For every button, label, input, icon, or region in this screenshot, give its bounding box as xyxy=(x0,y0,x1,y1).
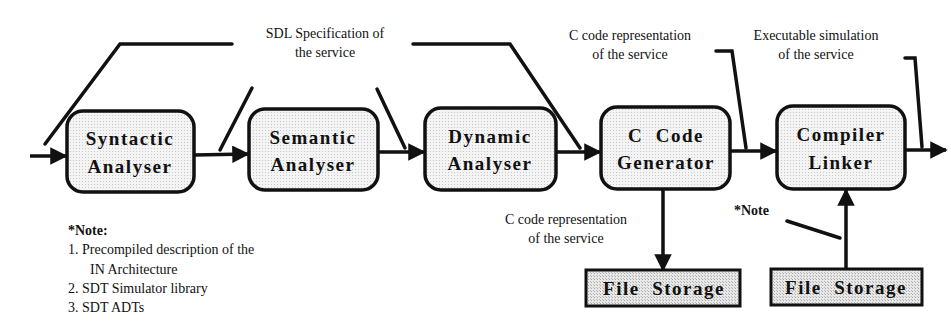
file-storage-input: File Storage xyxy=(771,269,922,305)
process-flow-diagram: SDL Specification of the service C code … xyxy=(0,0,951,331)
svg-text:of the service: of the service xyxy=(592,47,667,62)
executable-leader-line xyxy=(905,58,922,147)
svg-text:Syntactic: Syntactic xyxy=(86,128,174,149)
svg-text:Executable simulation: Executable simulation xyxy=(754,28,879,43)
stage-compiler-linker: Compiler Linker xyxy=(777,106,905,189)
svg-text:Analyser: Analyser xyxy=(271,154,356,175)
svg-text:*Note:: *Note: xyxy=(68,223,108,238)
stage-dynamic-analyser: Dynamic Analyser xyxy=(425,108,556,190)
sdl-spec-annotation: SDL Specification of the service xyxy=(266,26,385,60)
svg-text:File Storage: File Storage xyxy=(785,277,907,298)
svg-text:Semantic: Semantic xyxy=(270,127,357,148)
svg-text:Generator: Generator xyxy=(617,152,715,173)
svg-text:the service: the service xyxy=(295,45,355,60)
svg-text:Analyser: Analyser xyxy=(88,156,173,177)
file-storage-output: File Storage xyxy=(586,270,740,306)
svg-text:3. SDT ADTs: 3. SDT ADTs xyxy=(68,300,144,315)
svg-text:of the service: of the service xyxy=(528,231,603,246)
note-block: *Note: 1. Precompiled description of the… xyxy=(68,223,254,315)
svg-text:Compiler: Compiler xyxy=(796,124,885,145)
svg-text:File Storage: File Storage xyxy=(603,278,725,299)
svg-text:Analyser: Analyser xyxy=(448,153,533,174)
svg-text:IN Architecture: IN Architecture xyxy=(90,262,177,277)
svg-text:of the service: of the service xyxy=(778,47,853,62)
svg-text:C code representation: C code representation xyxy=(569,28,691,43)
svg-text:C Code: C Code xyxy=(628,125,704,146)
stage-c-code-generator: C Code Generator xyxy=(601,107,730,189)
executable-annotation: Executable simulation of the service xyxy=(754,28,879,62)
svg-text:Linker: Linker xyxy=(809,152,874,173)
c-code-bottom-annotation: C code representation of the service xyxy=(505,212,627,246)
note-leader-line xyxy=(787,221,840,238)
svg-text:2. SDT Simulator library: 2. SDT Simulator library xyxy=(68,281,208,296)
stage-syntactic-analyser: Syntactic Analyser xyxy=(67,111,194,192)
svg-text:1. Precompiled description of: 1. Precompiled description of the xyxy=(68,242,254,257)
svg-text:SDL Specification of: SDL Specification of xyxy=(266,26,385,41)
note-marker: *Note xyxy=(734,203,769,218)
svg-text:C code representation: C code representation xyxy=(505,212,627,227)
svg-text:Dynamic: Dynamic xyxy=(448,126,531,147)
c-code-top-annotation: C code representation of the service xyxy=(569,28,691,62)
stage-semantic-analyser: Semantic Analyser xyxy=(249,109,378,190)
